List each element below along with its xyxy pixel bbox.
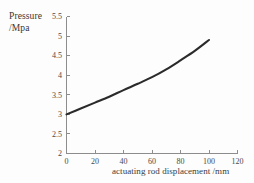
- y-tick-label: 4.5: [52, 51, 62, 60]
- x-tick-label: 0: [65, 157, 69, 166]
- x-tick-label: 20: [91, 157, 99, 166]
- x-axis-ticks: 020406080100120: [65, 150, 244, 166]
- y-tick-label: 5: [58, 32, 62, 41]
- chart-screenshot: Pressure /Mpa actuating rod displacement…: [0, 0, 254, 183]
- y-tick-label: 2.5: [52, 130, 62, 139]
- x-tick-label: 100: [203, 157, 215, 166]
- y-tick-label: 4: [58, 71, 62, 80]
- series-line-pressure: [67, 40, 210, 114]
- y-tick-label: 3: [58, 110, 62, 119]
- plot-area: 22.533.544.555.5 020406080100120: [0, 0, 254, 183]
- y-tick-label: 3.5: [52, 91, 62, 100]
- y-tick-label: 5.5: [52, 12, 62, 21]
- y-tick-label: 2: [58, 149, 62, 158]
- x-tick-label: 40: [120, 157, 128, 166]
- x-tick-label: 60: [148, 157, 156, 166]
- y-axis-ticks: 22.533.544.555.5: [52, 12, 70, 158]
- x-tick-label: 80: [177, 157, 185, 166]
- x-tick-label: 120: [232, 157, 244, 166]
